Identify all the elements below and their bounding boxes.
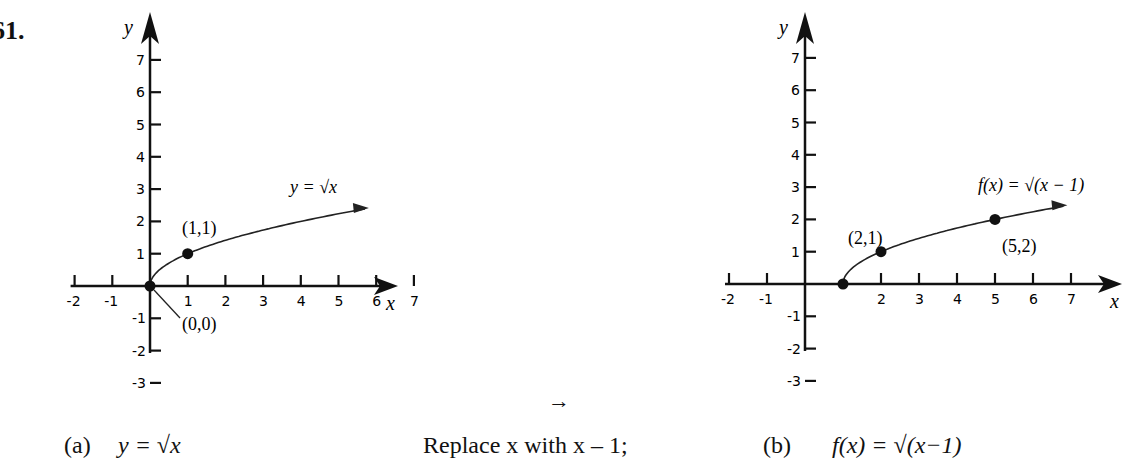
graph-a-y-label: y [122, 16, 133, 39]
caption-middle: Replace x with x – 1; [423, 432, 628, 459]
graph-b-y-tick-label: 7 [791, 50, 800, 66]
graph-b-y-tick-label: 5 [791, 115, 800, 131]
graph-a-y-tick-label: 5 [136, 117, 145, 133]
graph-a-curve-arrow-icon [353, 203, 369, 213]
graph-b-y-tick-label: -2 [787, 341, 801, 357]
graph-b-y-tick-label: 6 [791, 82, 800, 98]
graph-b-y-tick-label: 1 [791, 244, 800, 260]
graph-a-x-tick-label: 3 [259, 293, 268, 309]
graph-a-y-tick-label: 2 [136, 213, 145, 229]
graph-b-point-label: (2,1) [848, 228, 883, 249]
graph-b-x-tick-label: 3 [915, 291, 924, 307]
graph-a-leader-line [154, 290, 180, 318]
graph-a-point [145, 281, 156, 292]
graph-b-point [990, 214, 1001, 225]
graph-b-curve-arrow-icon [1051, 200, 1067, 210]
graph-b-curve-label: f(x) = √(x − 1) [978, 175, 1084, 196]
graph-b-y-label: y [777, 16, 788, 39]
caption-b-equation: f(x) = √(x−1) [832, 432, 962, 459]
graph-a-x-tick-label: 1 [184, 293, 193, 309]
graph-b-x-label: x [1109, 290, 1119, 312]
caption-a-equation: y = √x [118, 432, 181, 459]
graph-a-y-tick-label: 6 [136, 84, 145, 100]
graph-a-point-label: (0,0) [182, 314, 217, 335]
caption-a-label: (a) [64, 432, 91, 459]
graph-b-y-tick-label: -1 [787, 308, 801, 324]
graph-b-x-tick-label: 2 [877, 291, 886, 307]
transform-arrow: → [548, 388, 570, 414]
graph-a-x-tick-label: -1 [104, 293, 118, 309]
graph-a-x-tick-label: 5 [335, 293, 344, 309]
graph-a-x-tick-label: 2 [221, 293, 230, 309]
graph-b-x-tick-label: 7 [1067, 291, 1076, 307]
graph-b-y-tick-label: -3 [787, 373, 801, 389]
graph-a-x-tick-label: 7 [410, 293, 419, 309]
graph-a-y-tick-label: 7 [136, 52, 145, 68]
graph-a-point [182, 248, 193, 259]
graph-a-curve-label: y = √x [288, 177, 337, 197]
graph-a-x-label: x [385, 292, 395, 314]
graph-a-y-tick-label: -1 [132, 310, 146, 326]
graph-b-point [838, 279, 849, 290]
graph-b-y-tick-label: 4 [791, 147, 800, 163]
graph-a-y-tick-label: -3 [132, 375, 146, 391]
graph-b-y-tick-label: 3 [791, 179, 800, 195]
graph-a-y-tick-label: -2 [132, 343, 146, 359]
graph-a-y-tick-label: 3 [136, 181, 145, 197]
graph-b-point-label: (5,2) [1002, 236, 1037, 257]
graph-b-x-tick-label: 6 [1029, 291, 1038, 307]
graph-a-y-tick-label: 1 [136, 246, 145, 262]
graph-a-y-tick-label: 4 [136, 149, 145, 165]
graph-b-x-tick-label: 5 [991, 291, 1000, 307]
graph-b-x-tick-label: 4 [953, 291, 962, 307]
graph-a-point-label: (1,1) [182, 218, 217, 239]
graph-a-x-tick-label: 4 [297, 293, 306, 309]
graph-b-x-tick-label: -1 [759, 291, 773, 307]
graph-a-x-tick-label: -2 [67, 293, 81, 309]
caption-b-label: (b) [763, 432, 791, 459]
graph-b-x-tick-label: -2 [721, 291, 735, 307]
graph-a-x-tick-label: 6 [372, 293, 381, 309]
graph-b-y-tick-label: 2 [791, 211, 800, 227]
